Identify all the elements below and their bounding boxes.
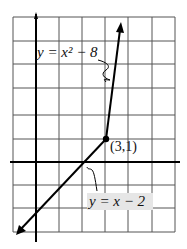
label-line-equation: y = x − 2 — [87, 193, 153, 210]
squiggle-pointer-upper — [98, 60, 110, 82]
curve-parabola — [106, 30, 120, 139]
label-point: (3,1) — [110, 139, 137, 155]
point-3-1-dot — [103, 136, 109, 142]
label-parabola-equation: y = x² − 8 — [37, 44, 98, 61]
piecewise-graph — [0, 0, 187, 249]
parabola-arrow-icon — [116, 22, 124, 33]
squiggle-pointer-lower — [87, 167, 97, 191]
y-axis-arrow-icon — [34, 12, 38, 19]
